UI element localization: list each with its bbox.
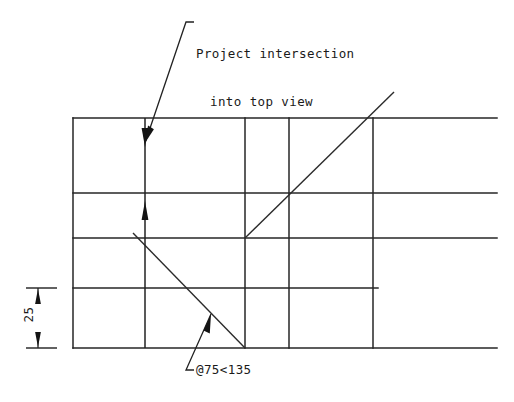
note-leader-group	[145, 22, 194, 143]
dimension-value-25: 25	[21, 307, 36, 323]
polar-coordinate-label: @75<135	[196, 362, 251, 377]
dimension-arrow-down	[35, 332, 41, 347]
descending-diagonal	[133, 233, 245, 348]
note-leader-line	[145, 22, 194, 143]
technical-drawing-canvas: Project intersection into top view @75<1…	[0, 0, 514, 402]
note-line-2: into top view	[196, 94, 355, 110]
grid-horizontal-lines	[73, 118, 497, 348]
note-line-1: Project intersection	[196, 46, 355, 62]
grid-vertical-lines	[73, 118, 373, 348]
projection-line-group	[142, 118, 149, 348]
dimension-arrow-up	[35, 289, 41, 304]
projection-arrow-up	[142, 201, 149, 220]
polar-leader-arrowhead	[204, 314, 212, 333]
note-annotation: Project intersection into top view	[196, 14, 355, 142]
